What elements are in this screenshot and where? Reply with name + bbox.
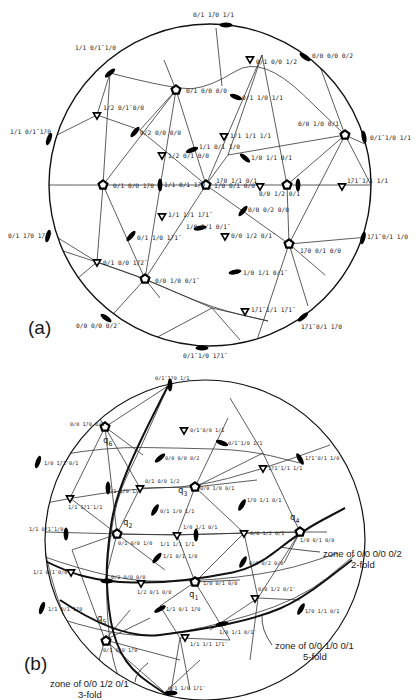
fivefold-pentagon-icon xyxy=(102,636,111,644)
lens-axis-node: 1/1 0/1 1̄/0 xyxy=(158,179,206,192)
lens-axis-node: 1/1 0/1 1̄/0 xyxy=(38,601,83,615)
node-index-label: 1/1 0/1 1̄/0 xyxy=(166,606,200,612)
node-index-label: 0/0 1/2 0/1̄ xyxy=(231,232,275,239)
fivefold-pentagon-icon xyxy=(113,529,122,537)
node-index-label: 0/1̄ 1/0 1/1 xyxy=(370,134,411,141)
lens-axis-node: 1̄/1̄ 0/1 1/0 xyxy=(359,231,408,245)
node-index-label: 0/1 1/0 1̄/1̄ xyxy=(168,685,205,691)
leader-line xyxy=(280,547,320,552)
projection-panel-b: 0/0 1̄/0 0/10/0 1/0 0/10/1 0/0 1/01/0 0/… xyxy=(20,375,402,700)
node-index-label: 1/1 0/1 1̄/0 xyxy=(164,181,205,188)
threefold-triangle-icon xyxy=(220,134,227,140)
lens-axis-node: 0/1̄ 1/0 1/1 xyxy=(215,439,262,448)
lens-axis-node: 1̄/0 1/1 0/1 xyxy=(237,497,282,512)
triangle-axis-node: 1/1 1/1 1̄/1̄ xyxy=(181,635,227,647)
great-circle-arc xyxy=(105,427,140,488)
node-index-label: 1/1 1/1 1/1 xyxy=(230,132,271,139)
twofold-lens-icon xyxy=(298,51,311,62)
triangle-axis-node: 0/0 1/2 0/1 xyxy=(240,530,284,537)
lens-axis-node: 0/1̄ 1̄/0 1/1 xyxy=(155,375,189,392)
node-index-label: 0/1̄ 1/0 1̄/1̄ xyxy=(183,352,227,359)
q-axis-marker: q5 xyxy=(97,613,106,626)
zone-symmetry: 5-fold xyxy=(303,651,327,662)
lens-axis-node: 0/1 1/0 1/1 xyxy=(150,503,195,517)
lens-axis-node: 0/0 0/2 0/0 xyxy=(237,204,289,217)
triangle-axis-node: 1/1 1/1 1/1 xyxy=(220,132,271,140)
twofold-lens-icon xyxy=(34,455,43,469)
lens-axis-node: 1/1 0/1̄ 1/0 xyxy=(75,44,117,79)
lens-axis-node: 0/1 1/0 1̄/1̄ xyxy=(165,685,206,695)
node-index-label: 0/1̄ 1/0 1/1 xyxy=(228,440,262,446)
triangle-axis-node: 1/1 1̄/1̄ 1/1 xyxy=(66,496,102,510)
great-circle-arc xyxy=(212,308,240,340)
lens-axis-node: 0/2 0/0 0/0 xyxy=(129,125,181,138)
node-index-label: 1/1 0/1 1/0 xyxy=(163,553,197,559)
great-circle-arc xyxy=(180,638,190,690)
node-index-label: 0/0 1̄/0 0/1 xyxy=(70,421,104,427)
lens-axis-node: 1/1 0/1̄ 1/0 xyxy=(29,526,68,541)
twofold-lens-icon xyxy=(153,604,167,615)
great-circle-arc xyxy=(38,508,105,690)
twofold-lens-icon xyxy=(158,179,163,192)
threefold-triangle-icon xyxy=(259,466,266,472)
lens-axis-node: 0/1 1/0 1/1 xyxy=(229,93,283,102)
node-index-label: 1/1 0/1 1/0 xyxy=(199,143,240,150)
fivefold-pentagon-icon xyxy=(141,274,150,282)
twofold-lens-icon xyxy=(196,346,209,351)
q-axis-marker: q1 xyxy=(189,589,198,602)
q-axis-marker: q2 xyxy=(123,517,132,530)
twofold-lens-icon xyxy=(64,528,69,541)
node-index-label: 1̄/1̄ 0/1 1/0 xyxy=(305,455,339,461)
stereographic-projection-figure: 0/1 0/0 0/00/1 0/0 1̄/01/0 0/1 0/00/0 1/… xyxy=(0,0,419,700)
node-index-label: 0/1̄ 0/0 1/1 xyxy=(190,427,224,433)
node-index-label: 1̄/1̄ 0/1 1/0 xyxy=(367,233,408,240)
threefold-triangle-icon xyxy=(241,309,248,315)
twofold-lens-icon xyxy=(237,498,248,512)
pentagon-axis-node: 1/0 0/1 0/0 xyxy=(296,527,335,543)
node-index-label: 0/1̄ 1̄/0 1/1 xyxy=(155,375,189,381)
zone-symmetry: 3-fold xyxy=(78,689,102,700)
node-index-label: 0/0 1/0 0/1 xyxy=(298,120,339,127)
fivefold-pentagon-icon xyxy=(341,130,350,138)
fivefold-pentagon-icon xyxy=(191,577,200,585)
node-index-label: 1/1 0/1̄ 1̄/0 xyxy=(10,128,51,135)
node-index-label: 1/0 1̄/1̄ 0/1 xyxy=(44,460,78,466)
zone-title: zone of 0/0 1/0 0/1 xyxy=(275,640,354,651)
node-index-label: 1̄/0 1/1 0/1 xyxy=(247,497,281,503)
triangle-axis-node: 0/1 0/0 1/2 xyxy=(246,57,297,65)
twofold-lens-icon xyxy=(228,269,242,276)
triangle-axis-node: 1/1 1/1 1̄/1̄ xyxy=(158,211,212,220)
fivefold-pentagon-icon xyxy=(99,180,108,188)
twofold-lens-icon xyxy=(38,601,47,615)
triangle-axis-node: 0/0 1/2 0/1̄ xyxy=(221,232,275,240)
pentagon-axis-node: 0/1 0/0 1̄/0 xyxy=(102,636,138,653)
node-index-label: 1/1 1/1 1̄/1̄ xyxy=(168,211,212,218)
triangle-axis-node: 1̄/1̄ 1/1 1/1 xyxy=(259,465,302,472)
lens-axis-node: 1/1 0/1̄ 1̄/0 xyxy=(10,128,53,146)
node-index-label: 0/1 1̄/0 1̄/1̄ xyxy=(8,232,52,239)
threefold-triangle-icon xyxy=(338,184,345,190)
node-index-label: 0/1 0/0 1̄/0 xyxy=(113,182,154,189)
twofold-lens-icon xyxy=(296,311,309,323)
node-index-label: 0/2 0/0 0/0 xyxy=(140,129,181,136)
node-index-label: 1/0 1/1 0/1 xyxy=(183,524,217,530)
node-index-label: 0/0 0/0 0/2 xyxy=(312,52,353,59)
node-index-label: 0/0 0/0 0/2̄ xyxy=(76,322,120,329)
lens-axis-node: 0/1 1̄/0 1̄/1̄ xyxy=(8,229,52,243)
fivefold-pentagon-icon xyxy=(296,527,305,535)
great-circle-arc xyxy=(72,262,97,283)
zone-great-circle xyxy=(38,508,100,680)
node-index-label: 1/1 0/1̄ 1/0 xyxy=(29,526,63,532)
panel-label-b: (b) xyxy=(24,653,47,674)
triangle-axis-node: 0/1 0/0 1̄/2̄ xyxy=(93,259,147,266)
node-index-label: 1̄/1̄ 1/1 1̄/1̄ xyxy=(251,306,295,313)
node-index-label: 0/1 1̄/0 1/1 xyxy=(193,11,234,18)
node-index-label: 0/0 1/2 0/1̄ xyxy=(258,586,295,592)
threefold-triangle-icon xyxy=(93,260,100,266)
triangle-axis-node: 1/2 0/1 0/0 xyxy=(158,152,209,159)
great-circle-arc xyxy=(160,660,200,697)
panel-label-a: (a) xyxy=(28,317,51,338)
node-index-label: 0/0 0/0 0/2 xyxy=(165,455,199,461)
zone-title: zone of 0/0 0/0 0/2 xyxy=(323,548,402,559)
node-index-label: 1/0 1/1 0/1 xyxy=(251,154,292,161)
